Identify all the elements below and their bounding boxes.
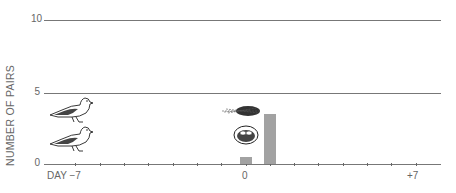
x-label-day-plus-7: +7 (407, 170, 418, 181)
x-tick (148, 163, 149, 166)
x-tick (124, 163, 125, 166)
gridline-5 (44, 93, 441, 94)
gridline-10 (44, 20, 441, 21)
x-label-day-0: 0 (242, 170, 248, 181)
nest-with-eggs-icon (233, 124, 261, 146)
nest-material-icon (220, 104, 264, 118)
dove-icon (48, 95, 98, 125)
bar-day-plus-1 (264, 114, 276, 164)
x-tick (416, 163, 417, 166)
x-tick (318, 163, 319, 166)
x-tick (294, 163, 295, 166)
x-tick (367, 163, 368, 166)
x-tick (343, 163, 344, 166)
x-tick (75, 163, 76, 166)
y-axis-label: NUMBER OF PAIRS (4, 46, 18, 166)
x-tick (173, 163, 174, 166)
x-axis (44, 164, 441, 165)
dove-icon (48, 124, 98, 154)
y-tick-5: 5 (28, 86, 40, 97)
x-tick (391, 163, 392, 166)
x-label-day-minus-7: DAY −7 (47, 170, 81, 181)
y-tick-0: 0 (28, 157, 40, 168)
x-tick (221, 163, 222, 166)
y-tick-10: 10 (30, 13, 42, 24)
bar-day-0 (240, 157, 252, 164)
x-tick (100, 163, 101, 166)
x-tick (197, 163, 198, 166)
